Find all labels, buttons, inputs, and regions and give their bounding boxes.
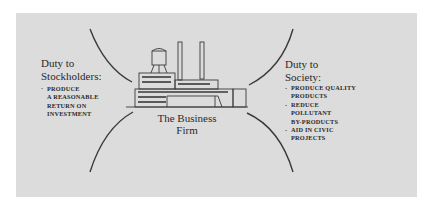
arc-bottom-left	[90, 112, 133, 172]
right-item-line: PRODUCTS	[291, 92, 327, 99]
left-item-line: PRODUCE	[47, 85, 80, 92]
right-item-line: PRODUCE QUALITY	[291, 84, 356, 91]
business-firm-label: The Business Firm	[146, 112, 228, 136]
left-duty-list: PRODUCE A REASONABLE RETURN ON INVESTMEN…	[41, 85, 99, 119]
firm-label-line1: The Business	[146, 112, 228, 124]
left-duty-item: PRODUCE A REASONABLE RETURN ON INVESTMEN…	[41, 85, 99, 119]
left-heading-line1: Duty to	[41, 57, 102, 70]
left-item-line: A REASONABLE	[47, 93, 99, 100]
right-heading-line2: Society:	[285, 71, 321, 84]
right-duty-item: PRODUCE QUALITY PRODUCTS	[285, 84, 356, 101]
right-duty-item: REDUCE POLLUTANT BY-PRODUCTS	[285, 101, 356, 126]
right-heading: Duty to Society:	[285, 58, 321, 84]
right-item-line: PROJECTS	[291, 134, 326, 141]
firm-label-line2: Firm	[146, 124, 228, 136]
right-duty-item: AID IN CIVIC PROJECTS	[285, 126, 356, 143]
right-item-line: AID IN CIVIC	[291, 126, 334, 133]
right-item-line: POLLUTANT	[291, 109, 332, 116]
factory-icon	[126, 42, 248, 107]
right-heading-line1: Duty to	[285, 58, 321, 71]
left-heading: Duty to Stockholders:	[41, 57, 102, 83]
right-item-line: BY-PRODUCTS	[291, 118, 338, 125]
right-item-line: REDUCE	[291, 101, 319, 108]
left-heading-line2: Stockholders:	[41, 70, 102, 83]
right-duty-list: PRODUCE QUALITY PRODUCTS REDUCE POLLUTAN…	[285, 84, 356, 143]
left-item-line: RETURN ON	[47, 102, 86, 109]
left-item-line: INVESTMENT	[47, 110, 91, 117]
arc-lines	[90, 29, 293, 172]
